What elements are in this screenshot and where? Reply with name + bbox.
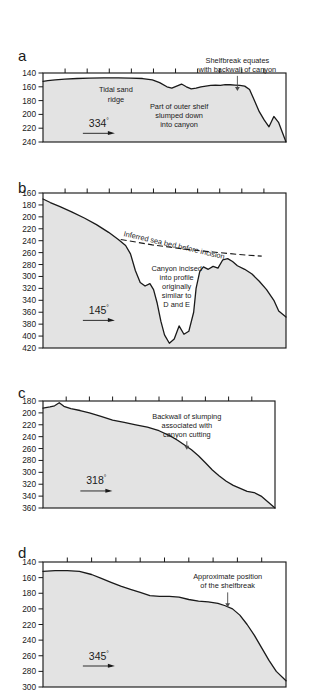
y-axis-label: 260: [22, 444, 36, 454]
y-axis-label: 240: [22, 635, 36, 645]
annotation-text: into profile: [160, 273, 194, 282]
annotation-text: ridge: [108, 95, 124, 104]
y-axis-label: 180: [22, 588, 36, 598]
y-axis-label: 200: [22, 109, 36, 119]
y-axis-label: 220: [22, 123, 36, 133]
y-axis-label: 300: [22, 682, 36, 692]
annotation-text: into canyon: [160, 120, 198, 129]
plot-area-d: 140160180200220240260280300Approximate p…: [43, 562, 292, 694]
bearing-value: 334: [89, 117, 107, 129]
bearing-label: 334°: [89, 117, 110, 129]
y-axis-label: 180: [22, 200, 36, 210]
bearing-value: 145: [89, 304, 107, 316]
annotation-text: Approximate position: [193, 572, 262, 581]
y-axis-label: 240: [22, 432, 36, 442]
bearing-label: 318°: [86, 474, 107, 486]
y-axis-label: 360: [22, 503, 36, 513]
annotation-text: Backwall of slumping: [152, 412, 221, 421]
panel-letter-a: a: [18, 48, 26, 63]
plot-area-b: 1601802002202402602803003203403603804004…: [43, 193, 292, 355]
y-axis-label: 300: [22, 271, 36, 281]
y-axis-label: 180: [22, 396, 36, 406]
y-axis-label: 200: [22, 408, 36, 418]
y-axis-label: 360: [22, 307, 36, 317]
y-axis-label: 240: [22, 137, 36, 147]
annotation-text: Tidal sand: [99, 85, 133, 94]
y-axis-label: 160: [22, 573, 36, 583]
annotation-text: canyon cutting: [163, 430, 211, 439]
annotation-text: slumped down: [155, 111, 203, 120]
y-axis-label: 340: [22, 295, 36, 305]
y-axis-label: 320: [22, 283, 36, 293]
plot-area-c: 180200220240260280300320340360Backwall o…: [43, 401, 281, 515]
y-axis-label: 400: [22, 331, 36, 341]
plot-area-a: 140160180200220240Tidal sandridgePart of…: [43, 73, 292, 149]
bearing-value: 318: [86, 474, 104, 486]
y-axis-label: 320: [22, 479, 36, 489]
annotation-text: Part of outer shelf: [150, 102, 209, 111]
y-axis-label: 180: [22, 96, 36, 106]
annotation-text: similar to: [162, 291, 192, 300]
y-axis-label: 140: [22, 557, 36, 567]
bearing-label: 145°: [89, 304, 110, 316]
y-axis-label: 220: [22, 620, 36, 630]
bearing-degree-symbol: °: [106, 304, 109, 311]
y-axis-label: 380: [22, 319, 36, 329]
y-axis-label: 280: [22, 260, 36, 270]
bearing-degree-symbol: °: [106, 650, 109, 657]
annotation-text: associated with: [162, 421, 213, 430]
y-axis-label: 140: [22, 68, 36, 78]
y-axis-label: 300: [22, 467, 36, 477]
annotation-text: Inferred sea bed before incision: [123, 229, 226, 261]
y-axis-label: 260: [22, 651, 36, 661]
y-axis-label: 340: [22, 491, 36, 501]
bearing-degree-symbol: °: [104, 474, 107, 481]
y-axis-label: 420: [22, 343, 36, 353]
annotation-text: D and E: [163, 300, 190, 309]
bearing-degree-symbol: °: [106, 117, 109, 124]
annotation-text: Shelfbreak equates: [206, 56, 270, 65]
y-axis-label: 220: [22, 420, 36, 430]
y-axis-label: 220: [22, 224, 36, 234]
annotation-text: with backwall of canyon: [198, 65, 277, 74]
annotation-text: of the shelfbreak: [200, 581, 255, 590]
y-axis-label: 260: [22, 248, 36, 258]
annotation-text: Canyon incised: [151, 264, 202, 273]
bearing-label: 345°: [89, 650, 110, 662]
annotation-text: originally: [162, 282, 191, 291]
y-axis-label: 200: [22, 212, 36, 222]
y-axis-label: 160: [22, 188, 36, 198]
bearing-value: 345: [89, 650, 107, 662]
y-axis-label: 200: [22, 604, 36, 614]
y-axis-label: 280: [22, 455, 36, 465]
y-axis-label: 240: [22, 236, 36, 246]
y-axis-label: 160: [22, 82, 36, 92]
y-axis-label: 280: [22, 666, 36, 676]
